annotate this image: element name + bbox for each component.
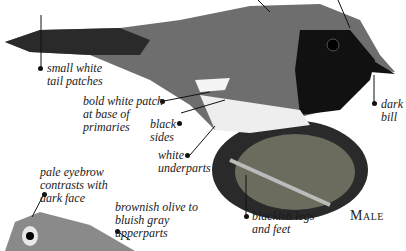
white-underparts-label: white underparts xyxy=(158,149,211,175)
legs-dot xyxy=(244,214,249,219)
legs-feet-label: blackish legs and feet xyxy=(252,210,314,236)
sex-label: Male xyxy=(350,208,384,224)
dark-bill-label: dark bill xyxy=(381,98,403,124)
black-sides-label: black sides xyxy=(150,118,176,144)
sides-dot xyxy=(177,121,182,126)
wing-patch-shape xyxy=(195,78,230,92)
tail-patches-label: small white tail patches xyxy=(47,62,103,88)
female-eye xyxy=(26,232,34,240)
illustration xyxy=(0,0,406,251)
upperparts-label: brownish olive to bluish gray upperparts xyxy=(115,201,198,240)
tail xyxy=(5,28,150,55)
tail-dot xyxy=(38,66,43,71)
eyebrow-label: pale eyebrow contrasts with dark face xyxy=(40,166,108,205)
bill-dot xyxy=(372,101,377,106)
eye xyxy=(327,39,339,51)
